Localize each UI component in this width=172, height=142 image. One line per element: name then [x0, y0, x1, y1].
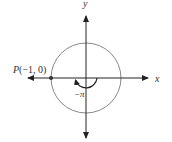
x-axis-label: x [154, 73, 160, 84]
point-p-coords: (−1, 0) [19, 64, 46, 76]
unit-circle-diagram: y x P(−1, 0) −π [0, 0, 172, 142]
point-p-marker [49, 76, 53, 80]
point-p-name: P [12, 64, 19, 75]
angle-label: −π [74, 89, 85, 99]
point-p-label: P(−1, 0) [12, 64, 46, 76]
y-axis-label: y [82, 0, 88, 9]
